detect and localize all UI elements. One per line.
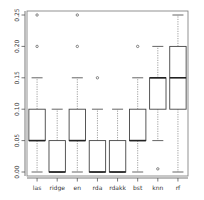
y-tick-label: 0.20	[13, 40, 20, 54]
boxplot-box-rf	[170, 15, 186, 172]
x-tick-label: rf	[176, 184, 181, 191]
x-tick-label: ridge	[49, 184, 65, 192]
outlier-point	[96, 77, 98, 79]
outlier-point	[157, 168, 159, 170]
x-tick-label: rdakk	[109, 184, 126, 191]
outlier-point	[36, 45, 38, 47]
y-tick-label: 0.00	[13, 165, 20, 179]
boxplot-box-en	[69, 14, 85, 172]
boxplot-box-bst	[129, 45, 145, 172]
boxplot-box-ridge	[49, 109, 65, 172]
box-iqr	[109, 141, 125, 172]
x-tick-label: bst	[133, 184, 143, 191]
y-tick-label: 0.10	[13, 102, 20, 116]
outlier-point	[76, 14, 78, 16]
y-axis-ticks: 0.250.200.150.100.050.00	[13, 8, 25, 179]
y-tick-label: 0.25	[13, 8, 20, 22]
box-iqr	[49, 141, 65, 172]
boxplot-box-rda	[89, 77, 105, 172]
boxplot-series	[29, 14, 186, 172]
boxplot-box-knn	[150, 46, 166, 170]
boxplot-chart: 0.250.200.150.100.050.00 lasridgeenrdard…	[0, 0, 204, 200]
boxplot-box-rdakk	[109, 109, 125, 172]
x-tick-label: rda	[93, 184, 103, 191]
box-iqr	[69, 109, 85, 140]
y-tick-label: 0.05	[13, 134, 20, 148]
outlier-point	[76, 45, 78, 47]
boxplot-box-las	[29, 14, 45, 172]
x-tick-label: knn	[152, 184, 163, 191]
box-iqr	[89, 141, 105, 172]
box-iqr	[129, 109, 145, 140]
x-axis-ticks: lasridgeenrdardakkbstknnrf	[33, 178, 181, 192]
outlier-point	[136, 45, 138, 47]
x-tick-label: en	[74, 184, 82, 191]
box-iqr	[29, 109, 45, 140]
boxplot-canvas: 0.250.200.150.100.050.00 lasridgeenrdard…	[0, 0, 204, 200]
y-tick-label: 0.15	[13, 71, 20, 85]
outlier-point	[36, 14, 38, 16]
x-tick-label: las	[33, 184, 41, 191]
box-iqr	[150, 78, 166, 109]
